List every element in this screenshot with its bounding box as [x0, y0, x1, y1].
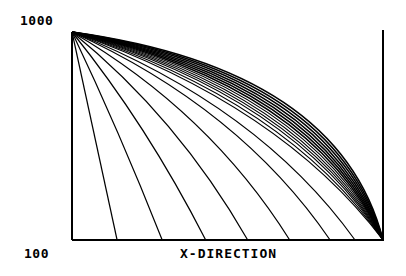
series-curve: [72, 32, 162, 240]
curve-family: [72, 32, 383, 240]
series-curve: [72, 32, 355, 240]
plot-area: [0, 0, 406, 276]
series-curve: [72, 32, 117, 240]
